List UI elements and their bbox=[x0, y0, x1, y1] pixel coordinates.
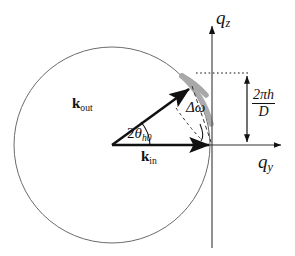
k-out-label: kout bbox=[72, 96, 93, 111]
two-theta-label-sub: h0 bbox=[142, 132, 152, 143]
delta-omega-angle-marker bbox=[200, 124, 203, 141]
qz-axis-label-sub: z bbox=[226, 16, 231, 30]
two-theta-label: 2θh0 bbox=[127, 126, 151, 141]
reciprocal-spacing-numerator: 2πh bbox=[252, 88, 275, 104]
delta-omega-label: Δω bbox=[186, 100, 205, 115]
reciprocal-spacing-denominator: D bbox=[252, 104, 275, 119]
qy-axis-label-q: q bbox=[258, 151, 268, 172]
qy-axis-label-sub: y bbox=[268, 160, 273, 174]
qz-axis-label-q: q bbox=[216, 7, 226, 28]
reciprocal-spacing-label: 2πh D bbox=[252, 88, 275, 119]
qy-axis-label: qy bbox=[258, 152, 273, 171]
two-theta-label-prefix: 2 bbox=[127, 125, 135, 141]
k-out-label-sub: out bbox=[80, 102, 92, 113]
k-in-label-sub: in bbox=[149, 155, 156, 166]
two-theta-label-symbol: θ bbox=[135, 125, 142, 141]
k-in-label: kin bbox=[141, 149, 157, 164]
qz-axis-label: qz bbox=[216, 8, 230, 27]
ewald-sphere-diagram: qz qy kout kin 2θh0 Δω 2πh D bbox=[0, 0, 295, 256]
